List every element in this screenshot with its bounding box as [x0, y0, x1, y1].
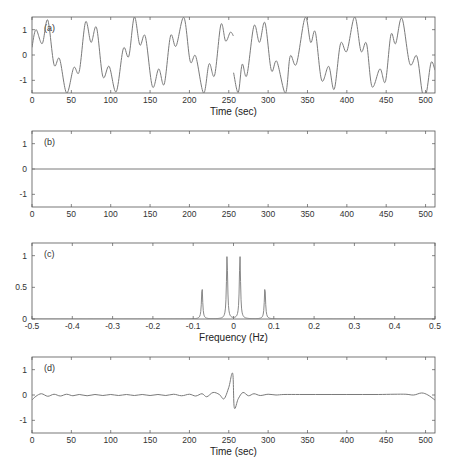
x-tick-label: 350	[300, 209, 314, 219]
y-tick-label: 0	[22, 164, 27, 174]
x-tick-label: 0	[231, 321, 236, 331]
x-tick-label: 150	[143, 435, 157, 445]
x-tick-label: 450	[379, 95, 393, 105]
x-tick-label: 300	[261, 95, 275, 105]
plot-area	[32, 373, 435, 409]
x-tick-label: 0.4	[389, 321, 401, 331]
x-tick-label: 400	[340, 435, 354, 445]
y-tick-label: -1	[19, 189, 27, 199]
x-tick-label: 150	[143, 95, 157, 105]
x-tick-label: 400	[340, 209, 354, 219]
y-tick-label: 0	[22, 314, 27, 324]
x-tick-label: 450	[379, 209, 393, 219]
series-line-signal	[32, 17, 233, 93]
x-tick-label: 100	[104, 209, 118, 219]
y-tick-label: 1	[22, 25, 27, 35]
series-line-filtered	[32, 373, 435, 409]
x-tick-label: 0.1	[268, 321, 280, 331]
axes-frame	[32, 17, 435, 93]
x-tick-label: 500	[418, 435, 432, 445]
series-line-signal	[234, 17, 435, 97]
x-tick-label: 200	[182, 95, 196, 105]
y-tick-label: -1	[19, 415, 27, 425]
x-tick-label: 0.2	[308, 321, 320, 331]
plot-area	[32, 17, 435, 97]
panel-label: (b)	[44, 137, 55, 147]
x-tick-label: 0.5	[429, 321, 441, 331]
x-tick-label: -0.4	[65, 321, 80, 331]
x-tick-label: 500	[418, 95, 432, 105]
x-tick-label: 0.3	[348, 321, 360, 331]
x-axis-label: Time (sec)	[210, 106, 257, 117]
panel-b: 050100150200250300350400450500-101(b)	[19, 131, 435, 219]
x-tick-label: 50	[67, 95, 77, 105]
x-tick-label: -0.3	[105, 321, 120, 331]
panel-label: (d)	[44, 363, 55, 373]
x-tick-label: 50	[67, 435, 77, 445]
y-tick-label: 1	[22, 139, 27, 149]
x-tick-label: 300	[261, 435, 275, 445]
x-tick-label: 100	[104, 95, 118, 105]
x-tick-label: 0	[30, 95, 35, 105]
panel-d: 050100150200250300350400450500-101(d)Tim…	[19, 357, 435, 457]
x-tick-label: 250	[222, 95, 236, 105]
x-tick-label: 100	[104, 435, 118, 445]
x-tick-label: 250	[222, 435, 236, 445]
x-tick-label: -0.2	[146, 321, 161, 331]
y-tick-label: -1	[19, 75, 27, 85]
x-axis-label: Time (sec)	[210, 446, 257, 457]
x-tick-label: 250	[222, 209, 236, 219]
x-tick-label: 350	[300, 95, 314, 105]
spectrum-line	[32, 257, 435, 319]
y-tick-label: 0.5	[15, 282, 27, 292]
x-tick-label: 500	[418, 209, 432, 219]
x-tick-label: 200	[182, 435, 196, 445]
x-tick-label: 200	[182, 209, 196, 219]
x-tick-label: 450	[379, 435, 393, 445]
x-axis-label: Frequency (Hz)	[199, 332, 268, 343]
x-tick-label: 350	[300, 435, 314, 445]
panel-label: (c)	[44, 249, 55, 259]
figure: 050100150200250300350400450500-101(a)Tim…	[0, 0, 454, 472]
x-tick-label: 0	[30, 435, 35, 445]
x-tick-label: 300	[261, 209, 275, 219]
x-tick-label: 0	[30, 209, 35, 219]
y-tick-label: 1	[22, 251, 27, 261]
y-tick-label: 1	[22, 365, 27, 375]
panel-a: 050100150200250300350400450500-101(a)Tim…	[19, 17, 435, 117]
x-tick-label: -0.1	[186, 321, 201, 331]
panel-c: -0.5-0.4-0.3-0.2-0.100.10.20.30.40.500.5…	[15, 243, 441, 343]
axes-frame	[32, 243, 435, 319]
plot-area	[32, 256, 435, 319]
x-tick-label: 150	[143, 209, 157, 219]
x-tick-label: 400	[340, 95, 354, 105]
x-tick-label: 50	[67, 209, 77, 219]
y-tick-label: 0	[22, 390, 27, 400]
y-tick-label: 0	[22, 50, 27, 60]
